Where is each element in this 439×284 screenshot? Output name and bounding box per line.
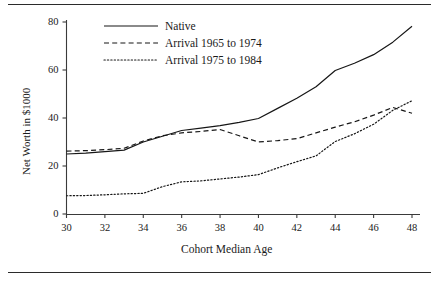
x-tick-label: 44 (315, 223, 355, 234)
x-tick-label: 32 (85, 223, 125, 234)
legend-label: Arrival 1975 to 1984 (165, 54, 262, 66)
legend-label: Arrival 1965 to 1974 (165, 37, 262, 49)
x-tick-label: 36 (162, 223, 202, 234)
legend-key-dotted-icon (104, 55, 158, 65)
y-tick-label: 80 (0, 17, 59, 28)
x-axis-title: Cohort Median Age (181, 243, 272, 255)
chart-legend: NativeArrival 1965 to 1974Arrival 1975 t… (104, 18, 262, 67)
legend-key-solid-icon (104, 21, 158, 31)
x-tick-label: 34 (123, 223, 163, 234)
x-tick-label: 48 (392, 223, 432, 234)
x-tick-label: 46 (354, 223, 394, 234)
legend-item[interactable]: Arrival 1965 to 1974 (104, 35, 262, 50)
x-tick-label: 38 (200, 223, 240, 234)
x-tick-label: 40 (238, 223, 278, 234)
series-line-dashed (67, 107, 413, 151)
y-axis-title: Net Worth in $1000 (20, 88, 32, 175)
x-tick-label: 30 (47, 223, 87, 234)
legend-key-dashed-icon (104, 38, 158, 48)
y-tick-label: 0 (0, 209, 59, 220)
figure-container: 020406080 30323436384042444648 Net Worth… (0, 0, 439, 284)
legend-label: Native (165, 20, 196, 32)
legend-item[interactable]: Arrival 1975 to 1984 (104, 52, 262, 67)
legend-item[interactable]: Native (104, 18, 262, 33)
y-tick-label: 60 (0, 65, 59, 76)
x-tick-label: 42 (277, 223, 317, 234)
y-axis-ticks (63, 22, 67, 214)
